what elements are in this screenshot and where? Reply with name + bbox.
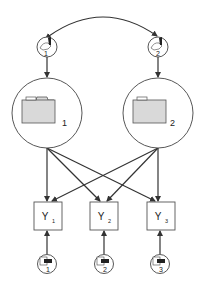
observed-subscript: 3 (165, 218, 168, 224)
observed-label: Y (42, 211, 49, 222)
factor-label: 1 (62, 118, 67, 128)
disturbance-1: 1 (37, 37, 57, 57)
latent-factor-1: 1 (12, 78, 82, 148)
sem-diagram: 1 2 1 2 Y 1 Y 2 (0, 0, 200, 289)
observed-y2: Y 2 (90, 202, 118, 230)
observed-y1: Y 1 (34, 202, 62, 230)
covariance-arrow (49, 17, 157, 36)
factor-label: 2 (170, 118, 175, 128)
disturbance-2: 2 (148, 37, 168, 57)
loading-arrows (47, 148, 158, 201)
latent-factor-2: 2 (123, 78, 193, 148)
observed-subscript: 2 (108, 218, 111, 224)
error-3: 3 (151, 255, 170, 274)
disturbance-label: 1 (44, 50, 48, 57)
folder-icon (133, 97, 166, 123)
error-label: 1 (46, 266, 50, 273)
observed-label: Y (155, 211, 162, 222)
folder-icon (22, 97, 55, 123)
observed-y3: Y 3 (147, 202, 175, 230)
error-label: 2 (103, 266, 107, 273)
error-label: 3 (159, 266, 163, 273)
error-1: 1 (38, 255, 57, 274)
error-2: 2 (95, 255, 114, 274)
observed-subscript: 1 (52, 218, 55, 224)
disturbance-label: 2 (156, 50, 160, 57)
observed-label: Y (98, 211, 105, 222)
